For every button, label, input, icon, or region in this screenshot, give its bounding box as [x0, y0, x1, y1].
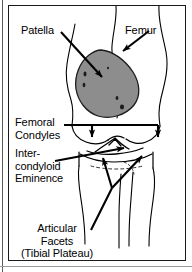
- articular-facets-leader: [91, 156, 142, 230]
- label-articular-facets: Articular Facets (Tibial Plateau): [11, 222, 103, 260]
- label-patella-text: Patella: [21, 24, 54, 36]
- label-femoral-condyles-line1: Femoral: [15, 116, 60, 129]
- label-patella: Patella: [21, 24, 54, 37]
- intercondyloid-eminence: [87, 138, 143, 154]
- label-articular-facets-line3: (Tibial Plateau): [11, 247, 103, 260]
- label-intercondyloid-eminence: Inter- condyloid Eminence: [15, 147, 63, 185]
- label-intercondyloid-line2: condyloid: [15, 160, 63, 173]
- label-femur: Femur: [125, 24, 156, 37]
- label-femoral-condyles-line2: Condyles: [15, 129, 60, 142]
- label-femoral-condyles: Femoral Condyles: [15, 116, 60, 141]
- label-femur-text: Femur: [125, 24, 156, 36]
- anatomy-figure: Patella Femur Femoral Condyles Inter- co…: [0, 0, 192, 272]
- label-articular-facets-line1: Articular: [11, 222, 103, 235]
- label-intercondyloid-line1: Inter-: [15, 147, 63, 160]
- fibula: [119, 162, 134, 248]
- page-left-rule: [2, 0, 3, 272]
- label-articular-facets-line2: Facets: [11, 235, 103, 248]
- femoral-condyles-leader: [64, 125, 158, 137]
- patella-shape: [76, 50, 139, 117]
- figure-frame: Patella Femur Femoral Condyles Inter- co…: [8, 5, 186, 261]
- label-intercondyloid-line3: Eminence: [15, 172, 63, 185]
- page-bottom-rule: [0, 266, 192, 267]
